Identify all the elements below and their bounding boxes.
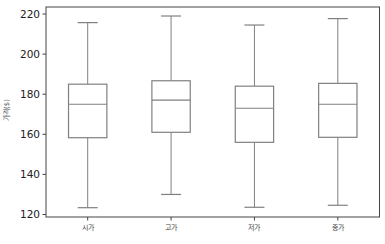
box-4 <box>319 19 357 206</box>
x-tick-label: 시가 <box>82 223 95 232</box>
y-axis-label: 가격($) <box>2 99 11 121</box>
iqr-box <box>69 84 107 138</box>
y-tick-label: 220 <box>20 8 40 20</box>
iqr-box <box>235 86 273 142</box>
y-tick-label: 200 <box>20 48 40 60</box>
plot-frame <box>46 7 380 217</box>
y-tick-label: 120 <box>20 208 40 220</box>
y-tick-label: 180 <box>20 88 40 100</box>
iqr-box <box>319 83 357 137</box>
box-2 <box>152 16 190 194</box>
y-tick-label: 160 <box>20 128 40 140</box>
x-axis: 시가고가저가종가 <box>82 217 345 232</box>
boxes-group <box>69 16 357 208</box>
box-plot: 120140160180200220 시가고가저가종가 가격($) <box>0 0 385 244</box>
x-tick-label: 저가 <box>248 223 261 232</box>
box-1 <box>69 23 107 208</box>
x-tick-label: 종가 <box>332 223 345 232</box>
box-3 <box>235 25 273 207</box>
x-tick-label: 고가 <box>165 223 178 232</box>
y-tick-label: 140 <box>20 168 40 180</box>
iqr-box <box>152 81 190 133</box>
y-axis: 120140160180200220 <box>20 8 46 221</box>
